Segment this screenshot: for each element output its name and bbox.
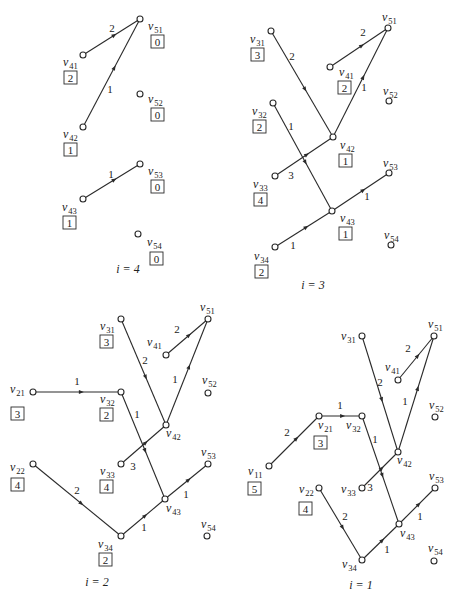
vertex-label: v32 [252,104,267,120]
edge-v34-v43: 1 [121,499,165,536]
distance-value: 3 [15,408,21,420]
distance-value: 2 [103,554,109,566]
edge-weight: 1 [402,395,408,407]
vertex-circle [80,124,86,130]
vertex-label: v31 [100,319,115,335]
arrow-icon [360,75,364,80]
edge-weight: 3 [130,460,136,472]
distance-value: 2 [104,409,110,421]
edge-weight: 2 [142,354,148,366]
vertex-circle [137,161,143,167]
node-v43: v43 [396,521,415,542]
node-v53: v53 [429,469,444,491]
arrow-icon [304,153,309,157]
edge-v11-v21: 2 [269,416,319,466]
vertex-label: v41 [339,65,354,81]
vertex-circle [205,390,211,396]
vertex-label: v41 [385,360,400,376]
vertex-label: v54 [147,235,163,251]
vertex-label: v51 [200,300,215,316]
vertex-label: v43 [62,200,77,216]
edge-weight: 2 [405,342,411,354]
node-v52: v520 [137,91,164,121]
vertex-circle [137,16,143,22]
distance-value: 2 [259,266,265,278]
distance-value: 2 [342,82,348,94]
distance-value: 3 [318,437,324,449]
node-v33: v33 [341,482,365,498]
edge-weight: 1 [417,510,423,522]
edge-weight: 1 [74,375,80,387]
node-v32: v322 [100,389,124,421]
edge-weight: 1 [290,239,296,251]
vertex-circle [268,28,274,34]
vertex-label: v21 [318,418,333,434]
node-v31: v313 [250,28,274,61]
vertex-circle [80,52,86,58]
distance-value: 4 [303,503,309,515]
distance-value: 1 [67,217,73,229]
vertex-label: v43 [166,501,181,517]
distance-value: 2 [68,72,74,84]
node-v53: v530 [137,161,164,193]
edge-weight: 2 [342,510,348,522]
vertex-circle [359,413,365,419]
edge-v22-v34: 2 [319,488,362,560]
vertex-circle [266,463,272,469]
node-v54: v54 [201,517,217,539]
edge-weight: 1 [337,399,343,411]
vertex-circle [118,533,124,539]
vertex-circle [272,173,278,179]
vertex-label: v54 [428,541,444,557]
node-v52: v52 [383,84,398,104]
node-v11: v115 [248,463,272,495]
node-v51: v51 [200,300,215,322]
vertex-circle [359,333,365,339]
distance-value: 0 [155,109,161,121]
edge-weight: 1 [372,433,378,445]
vertex-circle [135,231,141,237]
node-v21: v213 [314,413,333,449]
vertex-circle [359,557,365,563]
edge-v41-v51: 2 [330,26,388,67]
vertex-circle [118,461,124,467]
vertex-label: v51 [148,19,163,35]
vertex-label: v32 [100,392,115,408]
panel-caption: i = 4 [116,262,139,276]
distance-value: 2 [257,121,263,133]
arrow-icon [79,390,84,394]
vertex-circle [395,377,401,383]
arrow-icon [143,374,147,379]
vertex-circle [359,485,365,491]
edge-v21-v32: 1 [33,375,121,394]
edge-weight: 1 [107,83,113,95]
vertex-circle [163,352,169,358]
vertex-label: v11 [248,464,263,480]
node-v41: v41 [385,360,401,383]
vertex-label: v42 [397,453,412,469]
arrow-icon [302,86,306,91]
distance-value: 4 [258,194,264,206]
edge-weight: 2 [284,426,290,438]
vertex-circle [205,461,211,467]
arrow-icon [111,34,116,38]
node-v21: v213 [10,382,36,420]
vertex-label: v52 [148,92,163,108]
edge-v42-v51: 1 [166,319,208,425]
edge-weight: 1 [141,521,147,533]
vertex-circle [204,533,210,539]
vertex-label: v41 [63,55,78,71]
vertex-circle [270,100,276,106]
panel-i2: 221113211v51v313v41v213v322v52v42v224v33… [10,300,217,589]
node-v43: v431 [62,196,86,229]
vertex-circle [432,485,438,491]
vertex-circle [432,414,438,420]
vertex-circle [30,389,36,395]
node-v54: v54 [428,541,444,564]
edge-v33-v42: 3 [121,425,166,472]
node-v33: v334 [100,461,124,493]
edge-v31-v42: 2 [271,31,333,137]
edge-v33-v42: 3 [362,452,398,493]
vertex-label: v43 [400,526,415,542]
vertex-label: v42 [63,127,78,143]
